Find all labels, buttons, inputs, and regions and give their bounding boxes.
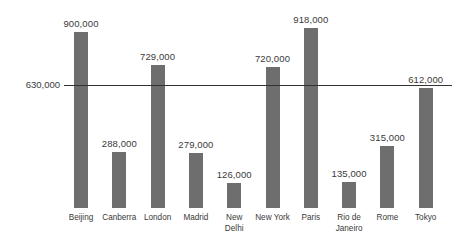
bar xyxy=(227,183,241,208)
bar-chart: 900,000Beijing288,000Canberra729,000Lond… xyxy=(0,0,467,248)
bar xyxy=(189,153,203,208)
bar-value-label: 900,000 xyxy=(51,18,111,29)
bar-value-label: 729,000 xyxy=(128,51,188,62)
bar xyxy=(342,182,356,208)
bar-value-label: 279,000 xyxy=(166,139,226,150)
bar xyxy=(419,88,433,208)
bar-value-label: 918,000 xyxy=(281,14,341,25)
reference-line-label: 630,000 xyxy=(0,79,60,90)
bar-value-label: 612,000 xyxy=(396,74,456,85)
bar xyxy=(304,28,318,208)
bar-value-label: 135,000 xyxy=(319,168,379,179)
reference-line xyxy=(64,85,452,86)
bar-value-label: 126,000 xyxy=(204,169,264,180)
plot-area: 900,000Beijing288,000Canberra729,000Lond… xyxy=(0,0,467,248)
bar xyxy=(74,32,88,208)
bar xyxy=(380,146,394,208)
bar xyxy=(112,152,126,208)
bar-value-label: 288,000 xyxy=(89,138,149,149)
category-label: Tokyo xyxy=(402,213,450,224)
bar xyxy=(151,65,165,208)
bar-value-label: 315,000 xyxy=(357,132,417,143)
bar-value-label: 720,000 xyxy=(243,53,303,64)
bar xyxy=(266,67,280,208)
